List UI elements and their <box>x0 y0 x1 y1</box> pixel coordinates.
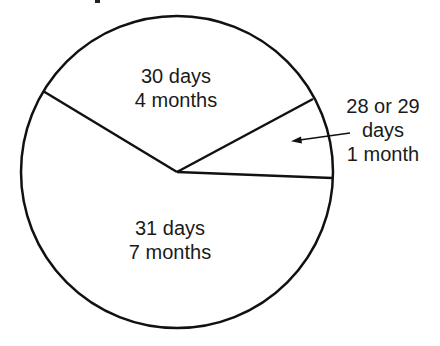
label-28-line2: days <box>362 119 404 141</box>
label-28-line3: 1 month <box>347 143 419 165</box>
label-28-line1: 28 or 29 <box>346 95 419 117</box>
label-30-days-line1: 30 days <box>141 65 211 87</box>
cropped-glyph-artifact <box>95 0 100 3</box>
label-30-days-line2: 4 months <box>135 89 217 111</box>
pie-chart: 30 days 4 months 28 or 29 days 1 month 3… <box>0 0 440 346</box>
label-28-29-days: 28 or 29 days 1 month <box>346 95 419 165</box>
label-31-days-line1: 31 days <box>135 217 205 239</box>
label-31-days-line2: 7 months <box>129 241 211 263</box>
